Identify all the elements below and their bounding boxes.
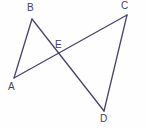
geometry-figure: A B C D E (0, 0, 146, 128)
vertex-label-c: C (121, 1, 128, 11)
segment-BD (32, 19, 104, 111)
geometry-canvas (0, 0, 146, 128)
segment-CD (104, 15, 127, 111)
vertex-label-a: A (8, 82, 15, 92)
vertex-label-b: B (27, 3, 34, 13)
vertex-label-d: D (100, 114, 107, 124)
vertex-label-e: E (55, 40, 62, 50)
